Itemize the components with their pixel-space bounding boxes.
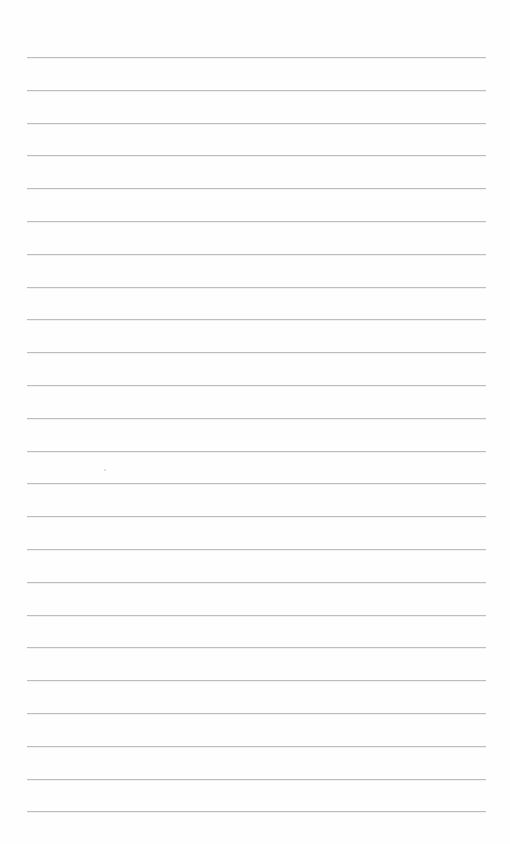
ruled-line <box>27 779 486 780</box>
ruled-line <box>27 385 486 386</box>
ruled-line <box>27 418 486 419</box>
ruled-line <box>27 483 486 484</box>
paper-speck <box>104 469 106 471</box>
ruled-line <box>27 287 486 288</box>
ruled-line <box>27 746 486 747</box>
ruled-line <box>27 352 486 353</box>
ruled-line <box>27 451 486 452</box>
ruled-line <box>27 516 486 517</box>
ruled-line <box>27 680 486 681</box>
ruled-line <box>27 188 486 189</box>
ruled-line <box>27 549 486 550</box>
ruled-line <box>27 57 486 58</box>
ruled-line <box>27 811 486 812</box>
ruled-line <box>27 155 486 156</box>
ruled-line <box>27 582 486 583</box>
ruled-line <box>27 647 486 648</box>
ruled-line <box>27 221 486 222</box>
ruled-line <box>27 319 486 320</box>
ruled-line <box>27 123 486 124</box>
lined-paper-page <box>0 0 510 844</box>
ruled-line <box>27 713 486 714</box>
ruled-line <box>27 615 486 616</box>
ruled-line <box>27 254 486 255</box>
ruled-line <box>27 90 486 91</box>
